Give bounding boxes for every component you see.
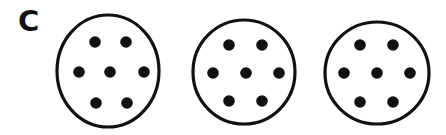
circle-2-dot-top-right <box>256 39 268 51</box>
circle-2-dot-middle-center <box>240 67 252 79</box>
circle-3-dot-bottom-left <box>354 96 366 108</box>
circle-3-dot-top-right <box>387 39 399 51</box>
circle-2-dot-top-left <box>223 39 235 51</box>
dot-pattern-diagram <box>0 0 446 135</box>
circle-1-dot-middle-center <box>104 66 116 78</box>
circle-2 <box>193 20 295 124</box>
circle-1-dot-top-right <box>120 36 132 48</box>
circle-3-dot-middle-center <box>371 67 383 79</box>
figure-panel-c: C <box>0 0 446 135</box>
circle-1-dot-bottom-left <box>90 97 102 109</box>
circle-1-dot-top-left <box>89 36 101 48</box>
circle-3 <box>325 22 429 124</box>
circle-2-dot-bottom-left <box>223 95 235 107</box>
circle-3-dot-middle-left <box>338 67 350 79</box>
circle-3-dot-bottom-right <box>387 96 399 108</box>
circle-3-dot-top-left <box>354 39 366 51</box>
circle-1-dot-middle-left <box>73 66 85 78</box>
circle-1-dot-middle-right <box>138 66 150 78</box>
circles-group <box>57 15 429 127</box>
circle-3-dot-middle-right <box>404 67 416 79</box>
circle-2-dot-bottom-right <box>256 95 268 107</box>
circle-2-dot-middle-right <box>273 67 285 79</box>
circle-1-dot-bottom-right <box>121 97 133 109</box>
circle-1 <box>57 15 159 127</box>
circle-2-dot-middle-left <box>207 67 219 79</box>
